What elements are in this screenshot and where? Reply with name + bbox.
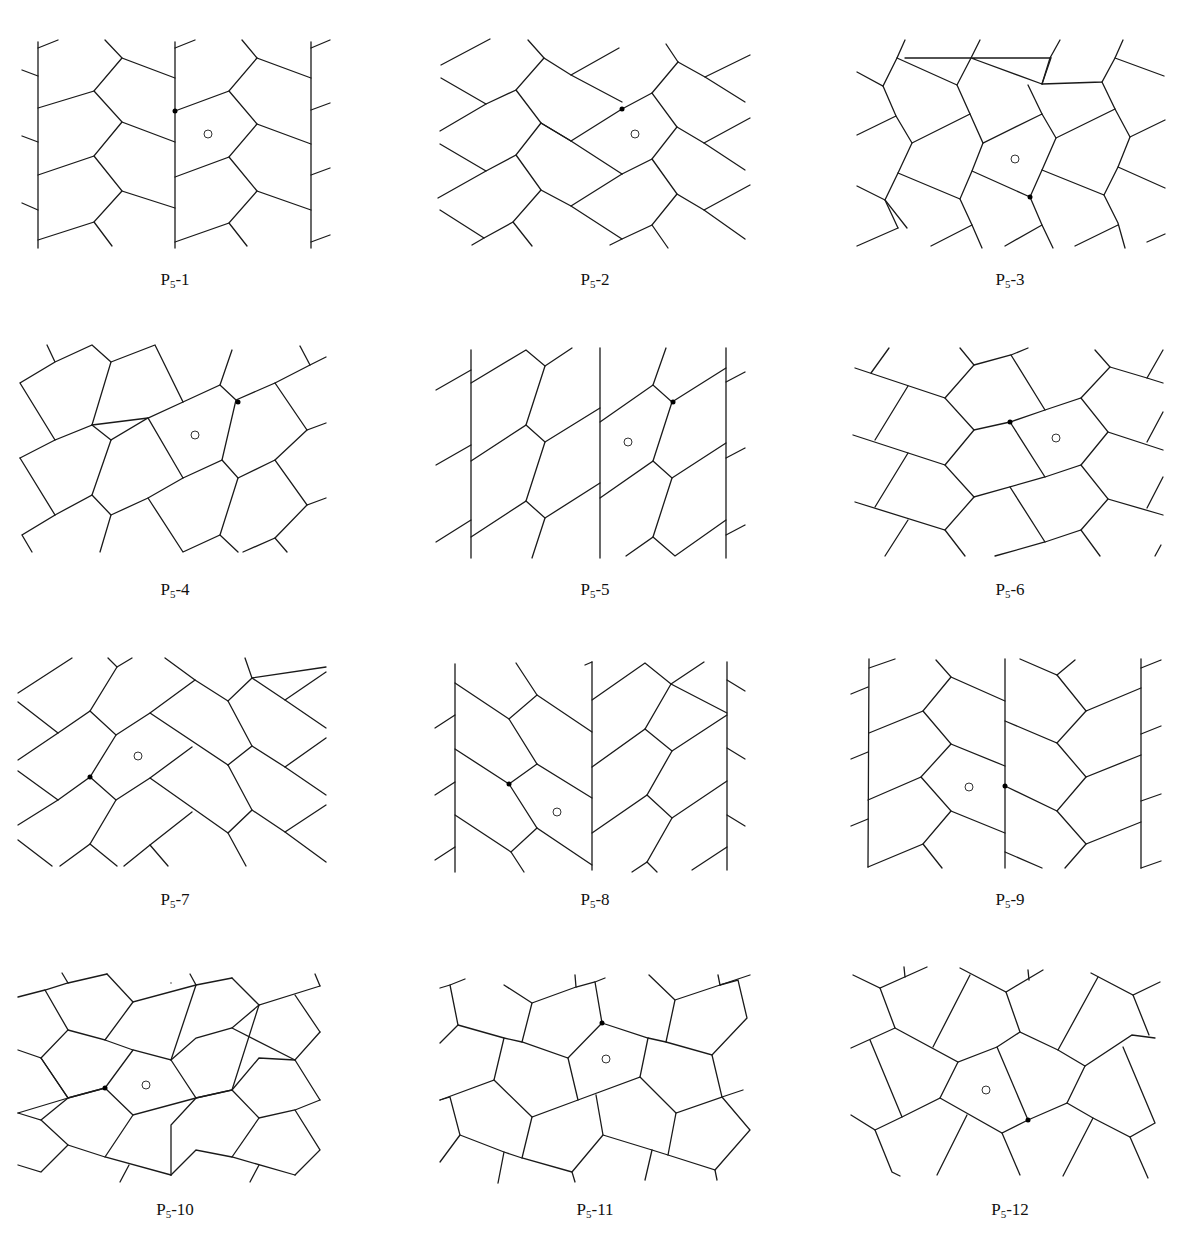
tiling-p5-6-drawing [835, 330, 1185, 570]
tile-center-circle [553, 808, 561, 816]
tiling-panel-p5-12: P5-12 [835, 950, 1185, 1235]
marked-vertex-dot [1003, 784, 1008, 789]
tile-center-circle [631, 130, 639, 138]
panel-label-p5-10: P5-10 [0, 1200, 350, 1220]
panel-label-p5-4: P5-4 [0, 580, 350, 600]
tile-center-circle [134, 752, 142, 760]
marked-vertex-dot [88, 775, 93, 780]
tiling-panel-p5-1: P5-1 [0, 20, 350, 310]
marked-vertex-dot [173, 109, 178, 114]
marked-vertex-dot [620, 107, 625, 112]
tile-center-circle [982, 1086, 990, 1094]
panel-label-p5-2: P5-2 [420, 270, 770, 290]
panel-label-p5-9: P5-9 [835, 890, 1185, 910]
panel-label-p5-6: P5-6 [835, 580, 1185, 600]
tiling-panel-p5-10: P5-10 [0, 950, 350, 1235]
panel-label-p5-7: P5-7 [0, 890, 350, 910]
tile-center-circle [624, 438, 632, 446]
tiling-panel-p5-9: P5-9 [835, 640, 1185, 930]
marked-vertex-dot [103, 1086, 108, 1091]
marked-vertex-dot [236, 400, 241, 405]
tiling-panel-p5-7: P5-7 [0, 640, 350, 930]
tiling-panel-p5-6: P5-6 [835, 330, 1185, 620]
tiling-p5-3-drawing [835, 20, 1185, 260]
tiling-panel-p5-4: P5-4 [0, 330, 350, 620]
tile-center-circle [602, 1055, 610, 1063]
tiling-p5-1-drawing [0, 20, 350, 260]
tile-center-circle [965, 783, 973, 791]
tiling-p5-10-drawing [0, 950, 350, 1190]
tiling-panel-p5-11: P5-11 [420, 950, 770, 1235]
marked-vertex-dot [1008, 420, 1013, 425]
tiling-p5-5-drawing [420, 330, 770, 570]
marked-vertex-dot [507, 782, 512, 787]
tiling-p5-2-drawing [420, 20, 770, 260]
marked-vertex-dot [671, 400, 676, 405]
marked-vertex-dot [1026, 1118, 1031, 1123]
tile-center-circle [142, 1081, 150, 1089]
tiling-p5-9-drawing [835, 640, 1185, 880]
tiling-p5-12-drawing [835, 950, 1185, 1190]
tiling-panel-p5-3: P5-3 [835, 20, 1185, 310]
tiling-panel-p5-8: P5-8 [420, 640, 770, 930]
tiling-panel-p5-5: P5-5 [420, 330, 770, 620]
panel-label-p5-12: P5-12 [835, 1200, 1185, 1220]
marked-vertex-dot [600, 1021, 605, 1026]
tile-center-circle [1052, 434, 1060, 442]
panel-label-p5-5: P5-5 [420, 580, 770, 600]
panel-label-p5-1: P5-1 [0, 270, 350, 290]
panel-label-p5-11: P5-11 [420, 1200, 770, 1220]
tiling-panel-p5-2: P5-2 [420, 20, 770, 310]
marked-vertex-dot [1028, 195, 1033, 200]
tiling-p5-4-drawing [0, 330, 350, 570]
panel-label-p5-3: P5-3 [835, 270, 1185, 290]
tiling-p5-7-drawing [0, 640, 350, 880]
tile-center-circle [204, 130, 212, 138]
tiling-p5-11-drawing [420, 950, 770, 1190]
tiling-p5-8-drawing [420, 640, 770, 880]
tile-center-circle [1011, 155, 1019, 163]
panel-label-p5-8: P5-8 [420, 890, 770, 910]
tile-center-circle [191, 431, 199, 439]
